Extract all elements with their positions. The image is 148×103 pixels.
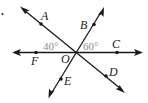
point-B bbox=[92, 23, 96, 27]
label-O: O bbox=[61, 52, 70, 66]
point-E bbox=[59, 77, 63, 81]
label-B: B bbox=[80, 18, 88, 32]
angle-label-40: 40° bbox=[43, 40, 58, 52]
label-E: E bbox=[63, 74, 72, 88]
geometry-diagram: A B C D E F O 40° 60° bbox=[0, 0, 148, 103]
point-C bbox=[115, 51, 119, 55]
problem-marker-dot bbox=[2, 13, 4, 15]
label-D: D bbox=[108, 65, 118, 79]
line-AD bbox=[20, 7, 125, 94]
angle-label-60: 60° bbox=[83, 40, 98, 52]
label-A: A bbox=[40, 9, 49, 23]
label-C: C bbox=[112, 37, 121, 51]
label-F: F bbox=[30, 54, 39, 68]
point-D bbox=[104, 74, 108, 78]
